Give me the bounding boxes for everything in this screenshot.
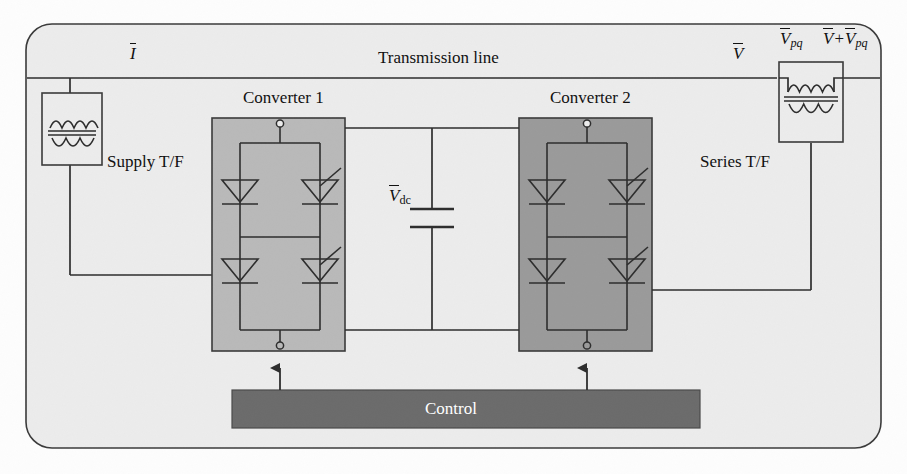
current-symbol: I [130, 44, 136, 64]
dc-link-voltage-label: Vdc [389, 186, 411, 208]
voltage-symbol: V [733, 44, 743, 64]
diagram-canvas: Transmission line I V Vpq V+Vpq Supply T… [0, 0, 907, 474]
dc-voltage-subscript: dc [399, 193, 411, 207]
voltage-label-V: V [733, 44, 743, 64]
sum-voltage-symbol-b: V [845, 29, 855, 49]
current-label-I: I [130, 44, 136, 64]
supply-transformer-label: Supply T/F [107, 152, 184, 172]
supply-transformer-symbol [42, 93, 102, 165]
converter-1-box[interactable] [212, 118, 345, 351]
outer-frame [26, 24, 881, 448]
converter-1-label: Converter 1 [243, 88, 324, 108]
series-transformer-symbol [779, 62, 843, 142]
converter-2-label: Converter 2 [550, 88, 631, 108]
series-transformer-label: Series T/F [700, 152, 770, 172]
series-voltage-label-Vpq: Vpq [780, 29, 803, 51]
dc-voltage-symbol: V [389, 186, 399, 206]
series-voltage-symbol: V [780, 29, 790, 49]
transmission-line-label: Transmission line [378, 48, 499, 68]
sum-voltage-operator: + [833, 29, 845, 48]
sum-voltage-subscript: pq [855, 36, 867, 50]
series-voltage-subscript: pq [790, 36, 802, 50]
sum-voltage-label-V-plus-Vpq: V+Vpq [823, 29, 868, 51]
converter-2-box[interactable] [519, 118, 652, 351]
sum-voltage-symbol-a: V [823, 29, 833, 49]
control-label: Control [425, 399, 477, 419]
